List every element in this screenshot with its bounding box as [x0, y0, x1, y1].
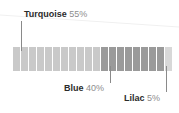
bar-segment [21, 47, 29, 71]
bar-segment [133, 47, 141, 71]
callout-turquoise-name: Turquoise [24, 9, 69, 19]
bar-segment [149, 47, 157, 71]
leader-line-blue [110, 66, 111, 83]
callout-blue-percent: 40% [86, 83, 104, 93]
bar-segment [77, 47, 85, 71]
chart-canvas: Turquoise 55% Blue 40% Lilac 5% [0, 0, 179, 113]
leader-line-lilac [166, 66, 167, 92]
bar-segment [93, 47, 101, 71]
callout-blue: Blue 40% [64, 83, 104, 94]
bar-segment [61, 47, 69, 71]
bar-segment [45, 47, 53, 71]
bar-segment [69, 47, 77, 71]
callout-lilac-percent: 5% [147, 93, 160, 103]
leader-line-turquoise [21, 21, 22, 51]
segmented-percentage-bar [13, 47, 172, 71]
bar-segment [117, 47, 125, 71]
callout-turquoise: Turquoise 55% [24, 9, 87, 20]
bar-segment [13, 47, 21, 71]
bar-segment [141, 47, 149, 71]
callout-lilac: Lilac 5% [124, 93, 160, 104]
bar-segment [53, 47, 61, 71]
callout-turquoise-percent: 55% [69, 9, 87, 19]
bar-segment [125, 47, 133, 71]
bar-segment [29, 47, 37, 71]
bar-segment [101, 47, 109, 71]
bar-segment [157, 47, 165, 71]
callout-blue-name: Blue [64, 83, 86, 93]
bar-segment [37, 47, 45, 71]
bar-segment [85, 47, 93, 71]
callout-lilac-name: Lilac [124, 93, 147, 103]
